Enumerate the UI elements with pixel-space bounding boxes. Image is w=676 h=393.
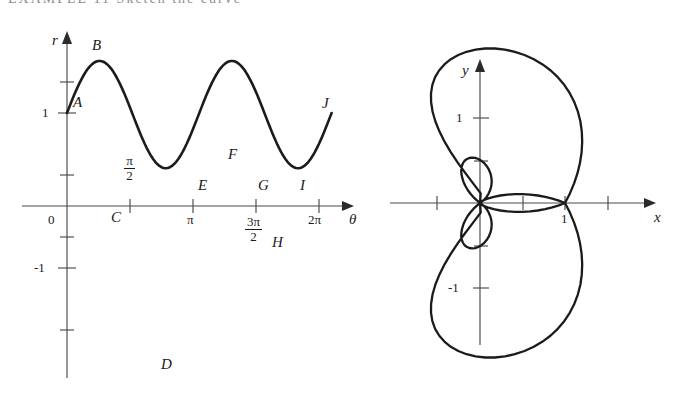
curve-point-label-I: I [300, 178, 305, 193]
r-axis-label: r [52, 33, 58, 48]
curve-point-label-F: F [228, 147, 237, 162]
curve-point-label-J: J [322, 96, 329, 111]
figure-root: EXAMPLE 11 Sketch the curve [0, 0, 676, 393]
curve-point-label-C: C [111, 210, 121, 225]
cartesian-curve [67, 61, 332, 168]
theta-tick-label-pi: π [187, 213, 194, 226]
polar-plot-svg [372, 0, 676, 393]
three-pi-over-2-numerator: 3π [245, 215, 262, 228]
curve-point-label-B: B [92, 38, 101, 53]
polar-x-axis-label: x [654, 210, 661, 225]
pi-over-2-denominator: 2 [124, 169, 135, 182]
theta-tick-label-3pi-over-2: 3π 2 [245, 215, 262, 244]
three-pi-over-2-denominator: 2 [248, 230, 259, 243]
origin-label: 0 [48, 213, 55, 226]
curve-point-label-D: D [161, 357, 172, 372]
cartesian-plot-svg [0, 0, 372, 393]
curve-point-label-H: H [272, 235, 283, 250]
curve-point-label-E: E [198, 178, 207, 193]
polar-y-axis-label: y [462, 63, 469, 78]
theta-tick-label-2pi: 2π [308, 213, 321, 226]
r-tick-label-neg1: -1 [34, 261, 45, 274]
theta-axis-label: θ [349, 212, 356, 227]
r-axis-arrowhead [62, 31, 72, 44]
cartesian-plot-panel: r θ 0 1 -1 π 2 π 3π 2 2π A B C D E F G H… [0, 0, 372, 393]
polar-y-tick-label-1: 1 [456, 111, 463, 124]
polar-x-axis-arrowhead [644, 198, 656, 208]
polar-x-tick-label-1: 1 [561, 212, 568, 225]
r-tick-label-1: 1 [42, 106, 49, 119]
polar-y-tick-label-neg1: -1 [448, 281, 459, 294]
polar-y-axis-arrowhead [475, 59, 485, 72]
curve-point-label-A: A [73, 95, 82, 110]
curve-point-label-G: G [258, 178, 269, 193]
polar-plot-panel: y x 1 -1 1 [372, 0, 676, 393]
pi-over-2-numerator: π [124, 154, 135, 167]
theta-axis-arrowhead [342, 201, 354, 211]
theta-tick-label-pi-over-2: π 2 [124, 154, 135, 183]
